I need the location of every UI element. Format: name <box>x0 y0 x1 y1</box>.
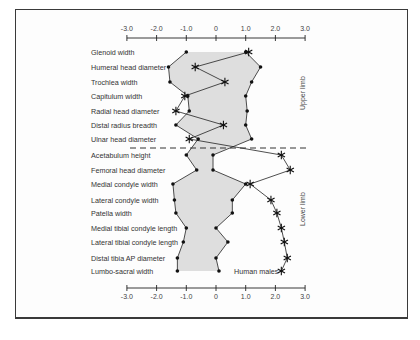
row-label: Distal tibia AP diameter <box>91 254 166 263</box>
row-label: Radial head diameter <box>91 107 160 116</box>
lower-bound-point <box>176 269 180 273</box>
upper-bound-point <box>244 94 248 98</box>
upper-bound-point <box>250 80 254 84</box>
upper-bound-point <box>259 65 263 69</box>
human-males-asterisk-icon <box>267 196 274 204</box>
lower-bound-point <box>171 182 175 186</box>
lower-bound-point <box>174 211 178 215</box>
human-males-asterisk-icon <box>278 267 285 275</box>
human-males-asterisk-icon <box>186 135 193 143</box>
lower-bound-point <box>187 109 191 113</box>
top-axis-tick-label: 0 <box>214 25 218 32</box>
upper-bound-point <box>250 137 254 141</box>
lower-bound-point <box>173 198 177 202</box>
row-label: Acetabulum height <box>91 151 151 160</box>
upper-bound-point <box>244 123 248 127</box>
lower-bound-point <box>196 137 200 141</box>
lower-limb-label: Lower limb <box>299 192 306 226</box>
upper-bound-point <box>217 269 221 273</box>
bottom-axis-tick-label: 3.0 <box>300 293 310 300</box>
row-label: Glenoid width <box>91 48 135 57</box>
upper-bound-point <box>211 153 215 157</box>
row-label: Lateral tibial condyle length <box>91 238 178 247</box>
bottom-axis-tick-label: -1.0 <box>180 293 192 300</box>
row-label: Femoral head diameter <box>91 166 166 175</box>
row-label: Lateral condyle width <box>91 196 159 205</box>
human-males-asterisk-icon <box>287 166 294 174</box>
top-axis-tick-label: -1.0 <box>180 25 192 32</box>
upper-bound-point <box>211 168 215 172</box>
row-label: Medial tibial condyle length <box>91 224 177 233</box>
lower-bound-point <box>167 65 171 69</box>
upper-bound-point <box>231 198 235 202</box>
lower-bound-point <box>168 80 172 84</box>
lower-bound-point <box>174 123 178 127</box>
top-axis-tick-label: 2.0 <box>271 25 281 32</box>
row-label: Ulnar head diameter <box>91 135 157 144</box>
bottom-axis-tick-label: -2.0 <box>151 293 163 300</box>
upper-bound-point <box>231 211 235 215</box>
lower-bound-point <box>185 153 189 157</box>
row-label: Patella width <box>91 209 132 218</box>
human-males-asterisk-icon <box>281 238 288 246</box>
row-label: Humeral head diameter <box>91 63 167 72</box>
row-label: Lumbo-sacral width <box>91 267 153 276</box>
lower-bound-point <box>185 226 189 230</box>
profile-chart: -3.0-2.0-1.001.02.03.0-3.0-2.0-1.001.02.… <box>0 0 420 340</box>
upper-limb-label: Upper limb <box>299 76 307 110</box>
lower-bound-point <box>176 256 180 260</box>
lower-bound-point <box>185 50 189 54</box>
human-males-asterisk-icon <box>278 151 285 159</box>
top-axis-tick-label: 1.0 <box>241 25 251 32</box>
row-label: Capitulum width <box>91 92 142 101</box>
top-axis-tick-label: 3.0 <box>300 25 310 32</box>
top-axis-tick-label: -2.0 <box>151 25 163 32</box>
upper-bound-point <box>214 256 218 260</box>
upper-bound-point <box>214 226 218 230</box>
lower-bound-point <box>182 240 186 244</box>
bottom-axis-tick-label: -3.0 <box>121 293 133 300</box>
human-males-asterisk-icon <box>172 107 179 115</box>
human-males-asterisk-icon <box>273 209 280 217</box>
human-males-label: Human males <box>234 267 279 276</box>
bottom-axis-tick-label: 0 <box>214 293 218 300</box>
row-label: Medial condyle width <box>91 180 158 189</box>
range-area <box>168 52 260 271</box>
human-males-asterisk-icon <box>278 224 285 232</box>
bottom-axis-tick-label: 1.0 <box>241 293 251 300</box>
row-label: Trochlea width <box>91 78 137 87</box>
bottom-axis-tick-label: 2.0 <box>271 293 281 300</box>
row-label: Distal radius breadth <box>91 121 157 130</box>
top-axis-tick-label: -3.0 <box>121 25 133 32</box>
upper-bound-point <box>226 240 230 244</box>
lower-bound-point <box>195 168 199 172</box>
upper-bound-point <box>245 109 249 113</box>
human-males-asterisk-icon <box>284 254 291 262</box>
human-males-asterisk-icon <box>247 180 254 188</box>
